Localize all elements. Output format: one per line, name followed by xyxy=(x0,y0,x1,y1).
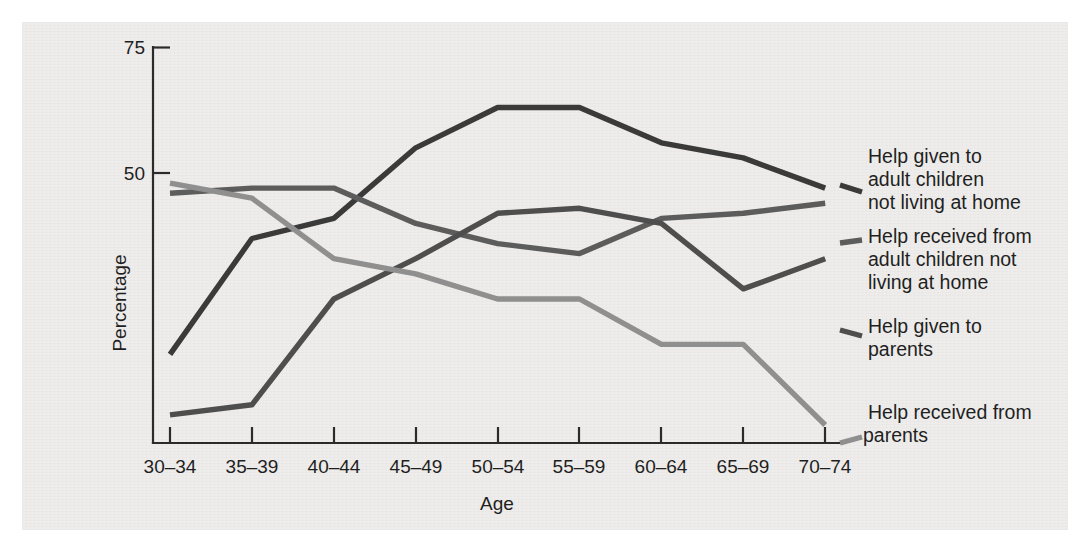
legend-label-2-line-0: Help given to xyxy=(868,315,982,337)
legend-entry-help-given-adult-children[interactable]: Help given to adult children not living … xyxy=(868,145,1021,213)
legend-connector-3 xyxy=(840,437,862,443)
x-tick-label-2: 40–44 xyxy=(308,456,361,477)
legend-entry-help-given-parents[interactable]: Help given to parents xyxy=(868,315,982,360)
legend-label-3-line-0: Help received from xyxy=(868,401,1032,423)
legend-connector-group xyxy=(840,185,862,443)
series-line-2 xyxy=(170,208,825,415)
x-tick-label-5: 55–59 xyxy=(553,456,606,477)
legend-label-0-line-2: not living at home xyxy=(868,191,1021,213)
y-axis-title: Percentage xyxy=(109,254,130,351)
legend-entry-help-received-adult-children[interactable]: Help received from adult children not li… xyxy=(868,225,1032,293)
x-tick-label-6: 60–64 xyxy=(635,456,688,477)
y-tick-label-50: 50 xyxy=(124,163,145,184)
legend-connector-0 xyxy=(840,185,862,192)
series-line-0 xyxy=(170,108,825,355)
legend-label-1-line-2: living at home xyxy=(868,271,988,293)
legend-label-1-line-1: adult children not xyxy=(868,248,1017,270)
x-tick-label-8: 70–74 xyxy=(799,456,852,477)
legend-connector-2 xyxy=(840,330,862,336)
legend-label-0-line-0: Help given to xyxy=(868,145,982,167)
x-tick-label-4: 50–54 xyxy=(472,456,525,477)
x-tick-label-0: 30–34 xyxy=(144,456,197,477)
x-tick-label-group: 30–34 35–39 40–44 45–49 50–54 55–59 60–6… xyxy=(144,456,852,477)
y-tick-label-75: 75 xyxy=(124,37,145,58)
legend-connector-1 xyxy=(840,240,862,243)
x-tick-label-1: 35–39 xyxy=(226,456,279,477)
x-tick-label-3: 45–49 xyxy=(390,456,443,477)
legend-label-1-line-0: Help received from xyxy=(868,225,1032,247)
legend-label-0-line-1: adult children xyxy=(868,168,984,190)
x-tick-group xyxy=(170,427,825,443)
series-line-1 xyxy=(170,188,825,254)
legend-label-3-line-1: parents xyxy=(863,424,928,446)
series-line-3 xyxy=(170,183,825,425)
chart-figure: 75 50 Percentage 30–34 35–39 40–44 45–49… xyxy=(0,0,1090,552)
line-chart: 75 50 Percentage 30–34 35–39 40–44 45–49… xyxy=(0,0,1090,552)
series-layer xyxy=(170,108,825,426)
legend-label-2-line-1: parents xyxy=(868,338,933,360)
x-axis-title: Age xyxy=(480,493,514,514)
legend-entry-help-received-parents[interactable]: Help received from parents xyxy=(863,401,1032,446)
x-tick-label-7: 65–69 xyxy=(717,456,770,477)
